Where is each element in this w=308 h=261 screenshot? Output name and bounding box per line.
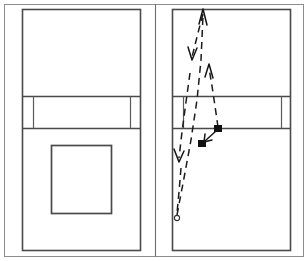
- arrowhead-down-left-icon: [174, 149, 184, 162]
- traj-segment-tail: [177, 168, 181, 213]
- marker-circle-origin: [174, 215, 179, 220]
- right-court-outline: [173, 10, 291, 251]
- marker-connector-line: [205, 131, 216, 141]
- left-zone-box: [52, 146, 112, 214]
- marker-square-upper: [215, 126, 222, 132]
- traj-segment-down-left: [192, 14, 203, 57]
- traj-segment-up-mid: [209, 68, 218, 127]
- trajectory-group: [174, 9, 222, 221]
- left-panel: [23, 10, 141, 251]
- marker-square-lower: [199, 141, 206, 147]
- traj-segment-up-right: [177, 16, 203, 215]
- right-panel: [173, 9, 291, 251]
- court-diagram-svg: [0, 0, 308, 261]
- left-court-outline: [23, 10, 141, 251]
- arrowhead-up-mid-icon: [205, 64, 213, 78]
- figure-root: [0, 0, 308, 261]
- traj-segment-descend-left: [179, 73, 190, 158]
- outer-frame-border: [5, 5, 304, 257]
